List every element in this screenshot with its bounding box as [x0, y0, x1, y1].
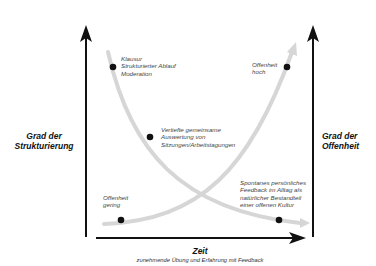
label-line: Moderation — [121, 70, 176, 77]
point-offenheit-gering-label: Offenheit gering — [103, 194, 128, 209]
x-axis-title: Zeit — [170, 246, 230, 256]
left-axis-title-line2: Strukturierung — [14, 141, 74, 151]
point-spontanes-dot — [276, 217, 283, 224]
label-line: Auswertung von — [161, 133, 235, 140]
label-line: Sitzungen/Arbeitstagungen — [161, 141, 235, 148]
label-line: Offenheit — [103, 194, 128, 201]
point-spontanes-label: Spontanes persönliches Feedback im Allta… — [240, 179, 306, 209]
label-line: Strukturierter Ablauf — [121, 62, 176, 69]
point-klausur-dot — [110, 64, 117, 71]
point-klausur-label: Klausur Strukturierter Ablauf Moderation — [121, 55, 176, 77]
label-line: Spontanes persönliches — [240, 179, 306, 186]
point-offenheit-gering-dot — [118, 217, 125, 224]
label-line: Feedback im Alltag als — [240, 186, 306, 193]
right-axis-title: Grad der Offenheit — [322, 131, 370, 151]
point-offenheit-hoch-label: Offenheit hoch — [252, 61, 277, 76]
label-line: natürlicher Bestandteil — [240, 194, 306, 201]
x-axis-subtitle: zunehmende Übung und Erfahrung mit Feedb… — [100, 257, 300, 263]
point-offenheit-hoch-dot — [284, 64, 291, 71]
point-vertiefte-label: Vertiefte gemeinsame Auswertung von Sitz… — [161, 126, 235, 148]
left-axis-title: Grad der Strukturierung — [14, 131, 74, 151]
left-axis-title-line1: Grad der — [14, 131, 74, 141]
right-axis-title-line1: Grad der — [322, 131, 370, 141]
openness-curve-arrowhead — [287, 42, 297, 56]
label-line: gering — [103, 201, 128, 208]
label-line: Klausur — [121, 55, 176, 62]
right-axis-title-line2: Offenheit — [322, 141, 370, 151]
label-line: einer offenen Kultur — [240, 201, 306, 208]
label-line: Offenheit — [252, 61, 277, 68]
point-vertiefte-dot — [147, 134, 154, 141]
label-line: hoch — [252, 68, 277, 75]
label-line: Vertiefte gemeinsame — [161, 126, 235, 133]
structure-curve-arrowhead — [300, 218, 310, 228]
